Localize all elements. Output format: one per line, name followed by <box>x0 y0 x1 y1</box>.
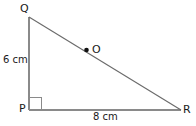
right-angle-marker <box>30 98 42 111</box>
measure-label-pr: 8 cm <box>93 112 118 122</box>
vertex-label-p: P <box>19 103 26 114</box>
side-qr-hypotenuse-line <box>29 17 181 110</box>
triangle-diagram <box>0 0 196 126</box>
vertex-label-r: R <box>183 104 191 115</box>
point-label-o: O <box>92 44 101 55</box>
measure-label-pq: 6 cm <box>3 55 28 65</box>
point-o-dot <box>84 48 89 53</box>
vertex-label-q: Q <box>20 3 29 14</box>
